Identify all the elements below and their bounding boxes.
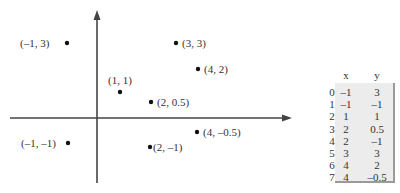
data-point: (1, 1) [108,74,132,94]
data-point: (3, 3) [174,37,206,50]
point-label: (2, 0.5) [157,96,189,109]
point-marker-icon [149,100,153,104]
data-point: (–1, –1) [21,137,70,150]
row-index: 0 [327,86,337,98]
data-point: (2, 0.5) [149,96,190,109]
data-points: (–1, 3)(3, 3)(4, 2)(1, 1)(2, 0.5)(–1, –1… [20,37,241,154]
row-index: 7 [327,171,337,183]
table-row: 42–1 [327,135,395,147]
x-axis-arrow-icon [282,115,292,122]
data-table: x y 0–131–1–1211320.542–153364274–0.5 [327,69,395,183]
cell-y: 2 [361,159,393,171]
point-label: (–1, 3) [20,37,50,50]
column-header-y: y [361,69,393,81]
cell-y: 1 [361,110,393,122]
cell-x: 4 [337,159,355,171]
cell-x: 3 [337,147,355,159]
cell-y: 3 [361,86,393,98]
cell-y: –1 [361,135,393,147]
cell-x: 1 [337,110,355,122]
point-marker-icon [148,145,152,149]
point-label: (4, 2) [204,63,228,76]
point-marker-icon [195,130,199,134]
row-index: 6 [327,159,337,171]
table-row: 74–0.5 [327,171,395,183]
table-row: 0–13 [327,86,395,98]
table-row: 211 [327,110,395,122]
row-index: 3 [327,123,337,135]
cell-x: –1 [337,86,355,98]
row-index: 4 [327,135,337,147]
point-label: (4, –0.5) [203,126,241,139]
y-axis-arrow-icon [94,10,101,20]
cell-x: 2 [337,123,355,135]
table-row: 642 [327,159,395,171]
cell-y: 3 [361,147,393,159]
point-label: (2, –1) [153,141,183,154]
row-index: 5 [327,147,337,159]
table-row: 320.5 [327,123,395,135]
table-row: 1–1–1 [327,98,395,110]
axes [10,10,292,183]
cell-y: –1 [361,98,393,110]
point-label: (3, 3) [182,37,206,50]
row-index: 2 [327,110,337,122]
point-marker-icon [66,141,70,145]
cell-x: –1 [337,98,355,110]
table-row: 533 [327,147,395,159]
point-marker-icon [174,41,178,45]
cell-x: 4 [337,171,355,183]
data-point: (2, –1) [148,141,183,154]
point-label: (1, 1) [108,74,132,87]
column-header-x: x [337,69,355,81]
point-label: (–1, –1) [21,137,56,150]
cell-x: 2 [337,135,355,147]
row-index: 1 [327,98,337,110]
cell-y: 0.5 [361,123,393,135]
point-marker-icon [118,90,122,94]
point-marker-icon [196,67,200,71]
cell-y: –0.5 [361,171,393,183]
point-marker-icon [65,41,69,45]
data-point: (–1, 3) [20,37,69,50]
data-point: (4, –0.5) [195,126,241,139]
data-point: (4, 2) [196,63,228,76]
